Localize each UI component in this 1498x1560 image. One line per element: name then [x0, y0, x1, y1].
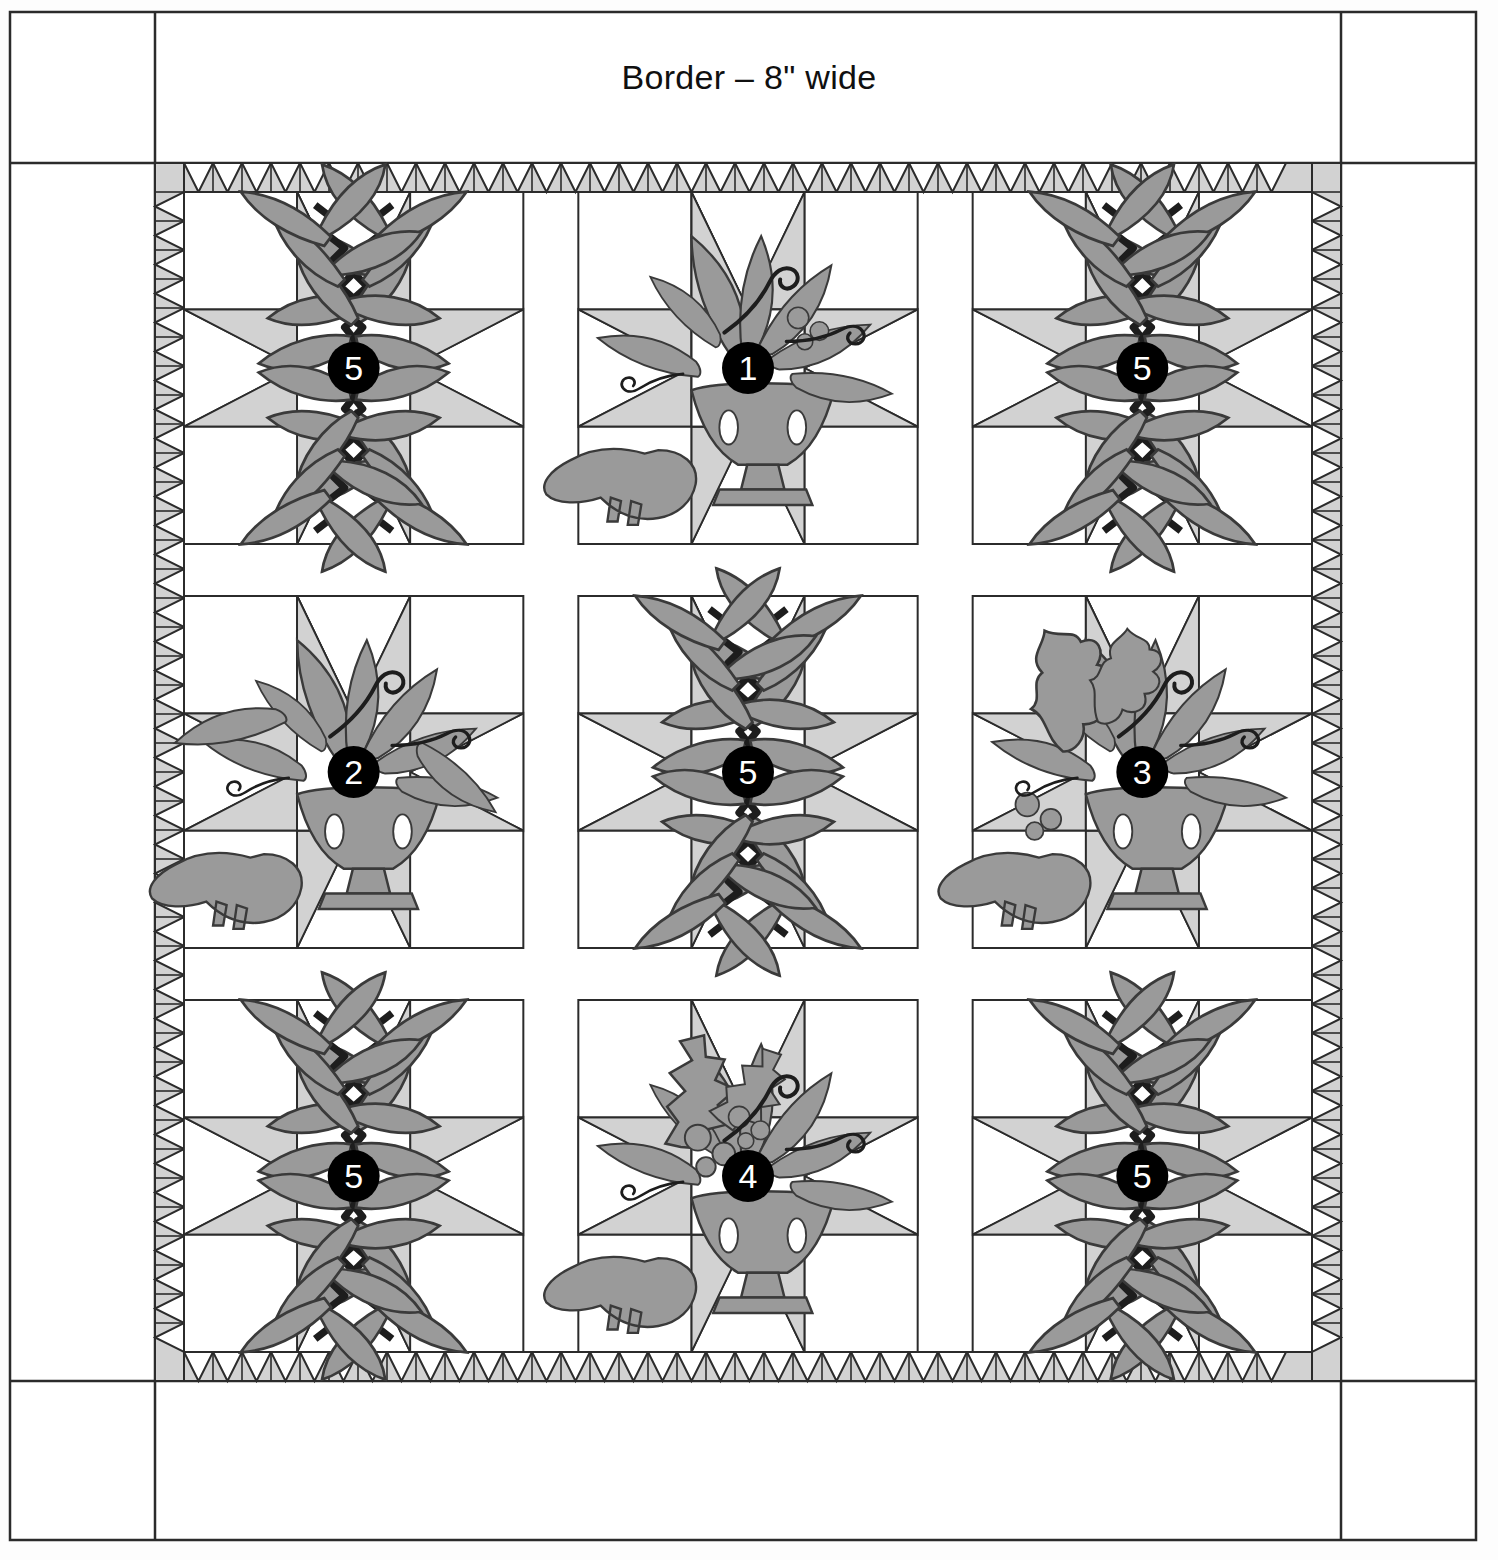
block-number-badge: 5 — [722, 746, 774, 798]
block-r2c2[interactable]: 5 — [578, 568, 917, 975]
block-number-badge: 5 — [1116, 1150, 1168, 1202]
svg-text:5: 5 — [344, 1157, 363, 1195]
block-r2c3[interactable]: 3 — [939, 596, 1312, 948]
block-r3c3[interactable]: 5 — [973, 972, 1312, 1379]
block-field: 515253545 — [150, 164, 1312, 1379]
block-r3c1[interactable]: 5 — [184, 972, 523, 1379]
svg-text:2: 2 — [344, 753, 363, 791]
block-number-badge: 5 — [328, 1150, 380, 1202]
svg-text:1: 1 — [739, 349, 758, 387]
block-r1c1[interactable]: 5 — [184, 164, 523, 571]
svg-text:5: 5 — [344, 349, 363, 387]
svg-text:5: 5 — [1133, 1157, 1152, 1195]
svg-text:3: 3 — [1133, 753, 1152, 791]
block-number-badge: 2 — [328, 746, 380, 798]
block-r2c1[interactable]: 2 — [150, 596, 523, 948]
quilt-diagram-page: 515253545 Border – 8" wide — [0, 0, 1498, 1560]
block-number-badge: 5 — [1116, 342, 1168, 394]
block-r1c2[interactable]: 1 — [544, 192, 917, 544]
svg-text:4: 4 — [739, 1157, 758, 1195]
svg-text:5: 5 — [739, 753, 758, 791]
block-number-badge: 3 — [1116, 746, 1168, 798]
quilt-layout-svg: 515253545 — [0, 0, 1498, 1560]
svg-text:5: 5 — [1133, 349, 1152, 387]
block-number-badge: 1 — [722, 342, 774, 394]
block-r3c2[interactable]: 4 — [544, 1000, 917, 1352]
block-r1c3[interactable]: 5 — [973, 164, 1312, 571]
block-number-badge: 5 — [328, 342, 380, 394]
block-number-badge: 4 — [722, 1150, 774, 1202]
